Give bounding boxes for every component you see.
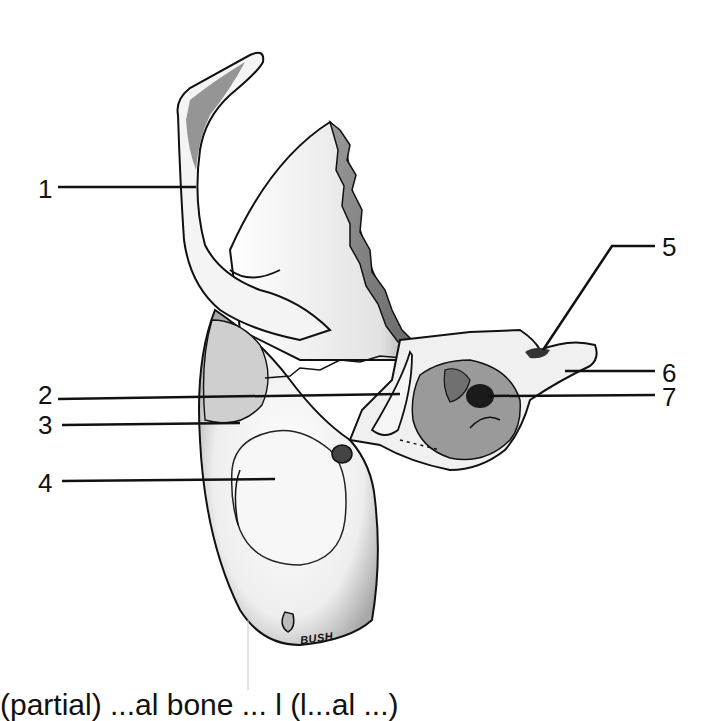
figure-caption-partial: (partial) ...al bone ... l (l...al ...) [0,690,398,720]
foramen [332,445,352,463]
mandibular-fossa [232,430,346,565]
label-3: 3 [38,412,52,438]
label-5: 5 [662,234,676,260]
label-1: 1 [38,176,52,202]
label-2: 2 [38,382,52,408]
label-4: 4 [38,470,52,496]
leader-5 [543,246,655,350]
leader-7 [488,395,655,396]
label-7: 7 [662,384,676,410]
